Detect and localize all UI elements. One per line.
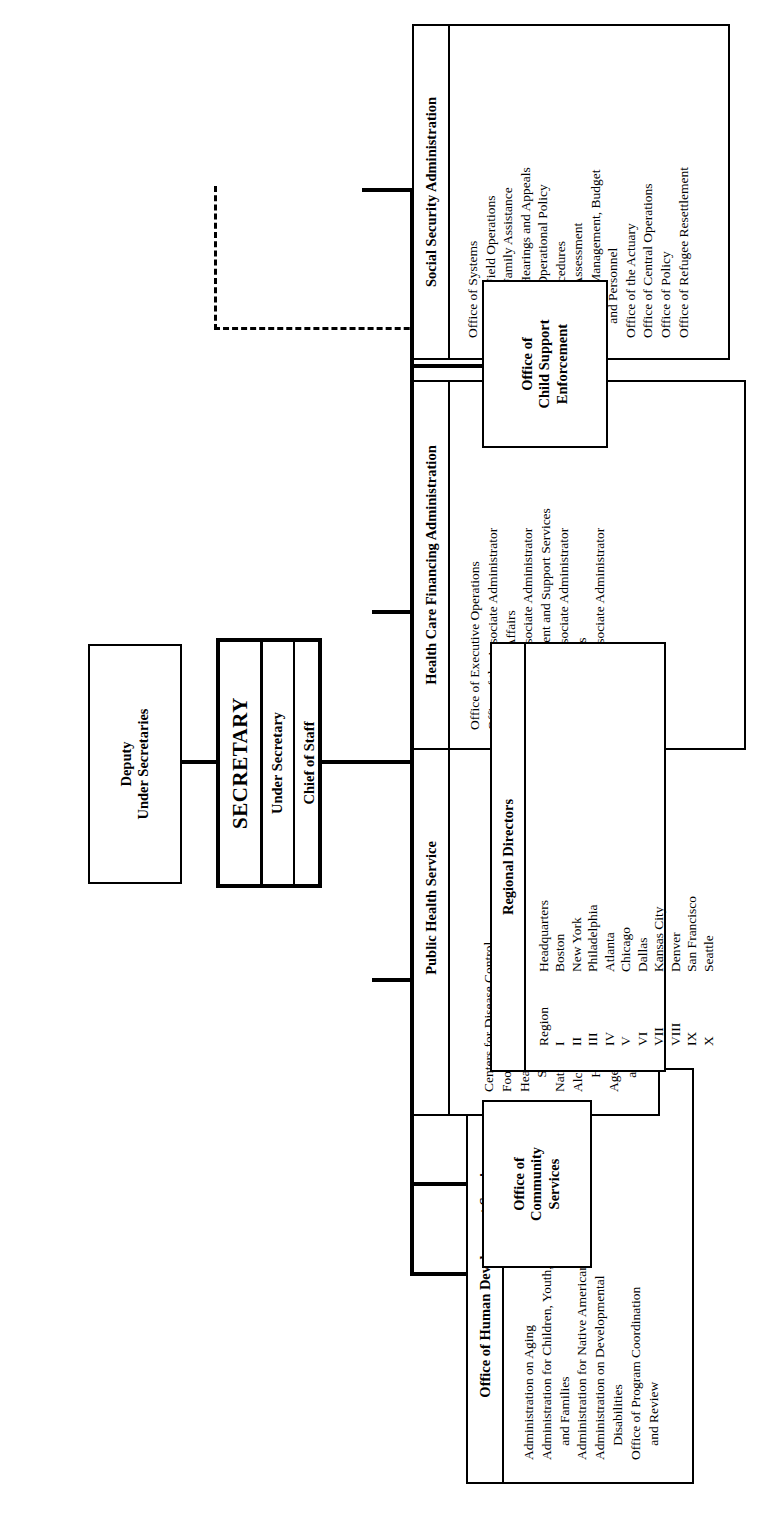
division-list-item: Office of Central Operations [639, 26, 657, 338]
regional-col-headquarters: Headquarters BostonNew YorkPhiladelphiaA… [536, 762, 717, 972]
regional-hq-cell: Kansas City [651, 762, 667, 972]
regional-hq-values: BostonNew YorkPhiladelphiaAtlantaChicago… [552, 762, 717, 972]
community-services-line-1: Office of [511, 1157, 528, 1211]
regional-hq-cell: San Francisco [684, 762, 700, 972]
regional-hq-cell: Philadelphia [585, 762, 601, 972]
division-list-item: Office of the Actuary [622, 26, 640, 338]
connector-deputy-stem [182, 760, 216, 764]
regional-region-cell: II [569, 972, 585, 1046]
regional-region-cell: IX [684, 972, 700, 1046]
secretary-block[interactable]: SECRETARY Under Secretary Chief of Staff [216, 638, 322, 888]
regional-directors-box[interactable]: Regional Directors Region IIIIIIIVVVIVII… [490, 642, 666, 1072]
deputy-line-2: Under Secretaries [135, 709, 152, 820]
division-header-hcfa: Health Care Financing Administration [414, 382, 448, 748]
regional-col-hq-header: Headquarters [536, 762, 552, 972]
regional-region-cell: IV [602, 972, 618, 1046]
secretary-label: SECRETARY [220, 642, 260, 884]
regional-region-cell: I [552, 972, 568, 1046]
division-list-item: Administration on Developmental [591, 1070, 609, 1460]
child-support-line-1: Office of [519, 337, 536, 391]
deputy-under-secretaries-text: Deputy Under Secretaries [90, 646, 180, 882]
regional-col-region-header: Region [536, 972, 552, 1046]
connector-drop-phs [372, 978, 412, 982]
connector-drop-ssa [362, 188, 412, 192]
division-list-item: Office of Policy [657, 26, 675, 338]
chief-of-staff-label: Chief of Staff [295, 642, 324, 884]
regional-col-region: Region IIIIIIIVVVIVIIVIIIIXX [536, 972, 717, 1046]
regional-region-cell: X [701, 972, 717, 1046]
child-support-line-2: Child Support [536, 319, 553, 408]
connector-drop-ohds [410, 1272, 466, 1276]
office-child-support-box[interactable]: Office of Child Support Enforcement [482, 280, 608, 448]
division-list-item: Office of Refugee Resettlement [675, 26, 693, 338]
regional-hq-cell: New York [569, 762, 585, 972]
regional-hq-cell: Chicago [618, 762, 634, 972]
regional-region-values: IIIIIIIVVVIVIIVIIIIXX [552, 972, 717, 1046]
child-support-line-3: Enforcement [554, 324, 571, 404]
division-list-item: Disabilities [609, 1070, 627, 1460]
deputy-under-secretaries-box[interactable]: Deputy Under Secretaries [88, 644, 182, 884]
community-services-line-2: Community [528, 1147, 545, 1221]
regional-directors-table: Region IIIIIIIVVVIVIIVIIIIXX Headquarter… [526, 644, 666, 1070]
connector-secretary-trunk [322, 760, 414, 764]
connector-drop-hcfa [372, 610, 412, 614]
org-chart-stage: SECRETARY Under Secretary Chief of Staff… [0, 0, 784, 1520]
regional-hq-cell: Denver [668, 762, 684, 972]
regional-region-cell: VI [635, 972, 651, 1046]
regional-region-cell: VII [651, 972, 667, 1046]
org-chart-canvas: SECRETARY Under Secretary Chief of Staff… [0, 0, 784, 1520]
regional-hq-cell: Atlanta [602, 762, 618, 972]
division-list-item: Office of Systems [464, 26, 482, 338]
division-header-phs: Public Health Service [414, 702, 448, 1114]
regional-hq-cell: Seattle [701, 762, 717, 972]
regional-region-cell: III [585, 972, 601, 1046]
regional-directors-header: Regional Directors [492, 644, 524, 1070]
office-community-services-box[interactable]: Office of Community Services [482, 1100, 592, 1268]
community-services-line-3: Services [546, 1159, 563, 1210]
connector-drop-child-support [410, 364, 482, 368]
office-community-services-text: Office of Community Services [484, 1102, 590, 1266]
deputy-line-1: Deputy [118, 741, 135, 786]
regional-hq-cell: Dallas [635, 762, 651, 972]
regional-region-cell: VIII [668, 972, 684, 1046]
regional-hq-cell: Boston [552, 762, 568, 972]
division-header-ssa: Social Security Administration [414, 26, 448, 358]
division-list-item: Office of Program Coordination [627, 1070, 645, 1460]
under-secretary-label: Under Secretary [263, 642, 293, 884]
office-child-support-text: Office of Child Support Enforcement [484, 282, 606, 446]
division-list-item: and Review [645, 1070, 663, 1460]
dashed-connector-horizontal [214, 186, 217, 330]
regional-region-cell: V [618, 972, 634, 1046]
